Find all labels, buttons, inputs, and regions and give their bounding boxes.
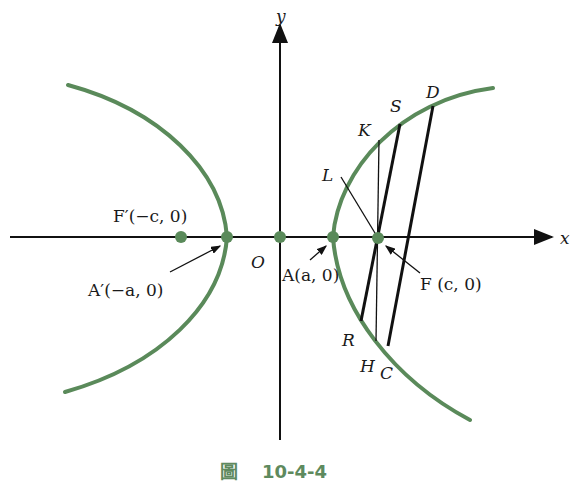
arrow-A-prime [170, 246, 220, 272]
hyperbola-right-branch [333, 88, 493, 420]
point-A-prime [221, 231, 233, 243]
point-origin [274, 231, 286, 243]
hyperbola-diagram: y x O F′(−c, 0) A′(−a, 0) A(a, 0) F (c, … [0, 0, 580, 491]
label-A-prime: A′(−a, 0) [87, 280, 163, 300]
point-F-prime [175, 231, 187, 243]
label-K: K [357, 120, 372, 140]
hyperbola-left-branch [65, 85, 227, 392]
label-R: R [341, 330, 355, 350]
origin-label: O [251, 252, 265, 272]
point-A [327, 231, 339, 243]
y-axis-label: y [275, 6, 286, 26]
caption-prefix: 圖 [220, 461, 238, 482]
label-H: H [359, 356, 376, 376]
label-F: F (c, 0) [420, 274, 482, 294]
label-S: S [390, 96, 402, 116]
label-F-prime: F′(−c, 0) [113, 206, 187, 226]
chord-DC [388, 106, 433, 346]
x-axis-label: x [560, 228, 570, 248]
point-F [372, 232, 384, 244]
label-L: L [321, 165, 333, 185]
arrow-A [310, 246, 326, 260]
label-A: A(a, 0) [281, 265, 339, 285]
label-C: C [380, 363, 393, 383]
label-D: D [425, 82, 440, 102]
caption-number: 10-4-4 [262, 461, 327, 482]
focal-line-LF [341, 177, 378, 238]
